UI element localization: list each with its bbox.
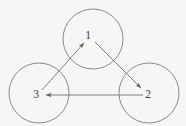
graph-diagram: 1 2 3 [0, 0, 186, 126]
nodes-group [9, 9, 179, 123]
edges-group [42, 42, 143, 95]
node-label-3: 3 [33, 88, 39, 100]
edge-1-to-2 [95, 42, 141, 88]
node-circle-3 [9, 63, 69, 123]
diagram-canvas: 1 2 3 [0, 0, 186, 126]
node-circle-1 [63, 9, 123, 69]
edge-3-to-1 [42, 43, 84, 90]
node-label-2: 2 [145, 88, 151, 100]
node-label-1: 1 [85, 29, 91, 41]
labels-group: 1 2 3 [33, 29, 151, 100]
